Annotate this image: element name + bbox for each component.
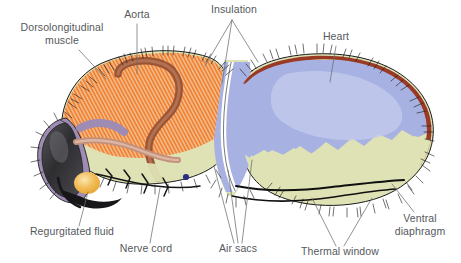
label-insulation: Insulation <box>211 3 257 15</box>
label-dorsolongitudinal-muscle: Dorsolongitudinal <box>21 21 104 33</box>
diagram-canvas: Dorsolongitudinal muscle Aorta Insulatio… <box>0 0 461 263</box>
label-thermal-window: Thermal window <box>301 245 379 257</box>
label-heart: Heart <box>323 30 349 42</box>
regurgitated-fluid-droplet <box>74 172 100 194</box>
leader-insulation-3 <box>232 20 258 62</box>
label-ventral-diaphragm-line2: diaphragm <box>395 225 446 237</box>
leader-thermal-window-2 <box>344 198 372 246</box>
label-aorta: Aorta <box>124 8 150 20</box>
label-dorsolongitudinal-muscle-line2: muscle <box>45 34 79 46</box>
label-ventral-diaphragm: Ventral <box>403 212 436 224</box>
ganglion <box>183 174 189 180</box>
label-regurgitated-fluid: Regurgitated fluid <box>30 225 114 237</box>
leader-nerve-cord <box>150 188 160 243</box>
label-air-sacs: Air sacs <box>219 242 257 254</box>
label-nerve-cord: Nerve cord <box>120 242 172 254</box>
leader-insulation-1 <box>205 20 232 66</box>
bee-anatomy-illustration: Dorsolongitudinal muscle Aorta Insulatio… <box>0 0 461 263</box>
